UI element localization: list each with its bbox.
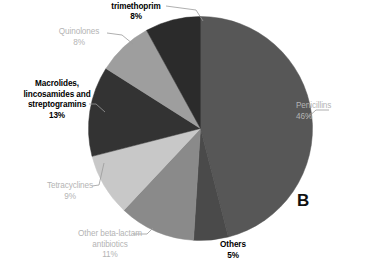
slice-label-line1: Penicillins [296, 101, 331, 110]
slice-label-percent: 8% [32, 38, 126, 49]
slice-label-others: Others 5% [193, 240, 273, 261]
slice-label-line3: streptogramins [28, 100, 86, 109]
slice-label-percent: 5% [193, 251, 273, 262]
pie-slice-group [89, 17, 313, 241]
slice-label-percent: 8% [81, 12, 191, 23]
slice-label-percent: 13% [4, 111, 110, 122]
slice-label-sulphonamides: Sulphonamides and trimethoprim 8% [81, 0, 191, 23]
slice-label-line1: Quinolones [59, 27, 99, 36]
slice-label-beta-lactam: Other beta-lactam antibiotics 11% [50, 229, 170, 261]
pie-chart: Sulphonamides and trimethoprim 8% Quinol… [0, 0, 374, 269]
slice-label-line1: Others [220, 240, 246, 249]
slice-label-percent: 11% [50, 250, 170, 261]
slice-label-line2: antibiotics [92, 240, 127, 249]
slice-label-percent: 46% [296, 112, 372, 123]
slice-label-line2: trimethoprim [111, 2, 160, 11]
slice-label-line1: Macrolides, [35, 79, 79, 88]
slice-label-quinolones: Quinolones 8% [32, 27, 126, 48]
slice-label-macrolides: Macrolides, lincosamides and streptogram… [4, 79, 110, 121]
slice-label-line2: lincosamides and [23, 90, 90, 99]
slice-label-tetracyclines: Tetracyclines 9% [22, 181, 118, 202]
panel-letter: B [297, 191, 309, 211]
slice-label-line1: Tetracyclines [47, 181, 93, 190]
slice-label-penicillins: Penicillins 46% [296, 101, 372, 122]
slice-label-percent: 9% [22, 192, 118, 203]
slice-label-line1: Other beta-lactam [78, 229, 142, 238]
